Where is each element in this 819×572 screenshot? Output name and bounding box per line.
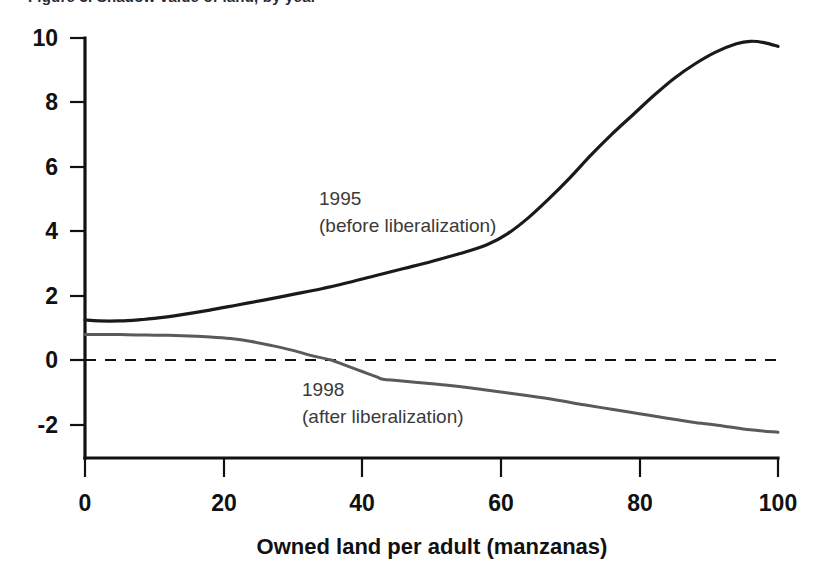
y-tick-label-2: 2 bbox=[45, 283, 58, 309]
y-tick-label-neg2: -2 bbox=[38, 412, 58, 438]
series-line-1995 bbox=[85, 41, 778, 321]
annotation-1995-line2: (before liberalization) bbox=[319, 215, 496, 236]
y-tick-label-0: 0 bbox=[45, 347, 58, 373]
x-tick-label-40: 40 bbox=[349, 490, 375, 516]
y-axis-ticks bbox=[70, 38, 85, 425]
annotation-1998-line2: (after liberalization) bbox=[302, 406, 464, 427]
y-tick-label-6: 6 bbox=[45, 154, 58, 180]
x-tick-label-0: 0 bbox=[79, 490, 92, 516]
x-axis-ticks bbox=[85, 458, 778, 477]
x-tick-label-100: 100 bbox=[759, 490, 797, 516]
y-tick-label-10: 10 bbox=[32, 25, 58, 51]
line-chart-canvas: 10 8 6 4 2 0 -2 0 20 40 60 80 100 bbox=[0, 0, 819, 572]
x-axis-tick-labels: 0 20 40 60 80 100 bbox=[79, 490, 798, 516]
x-tick-label-60: 60 bbox=[488, 490, 514, 516]
x-axis-title: Owned land per adult (manzanas) bbox=[257, 534, 608, 559]
annotation-1995-line1: 1995 bbox=[319, 188, 361, 209]
y-axis-tick-labels: 10 8 6 4 2 0 -2 bbox=[32, 25, 58, 438]
annotation-1995: 1995 (before liberalization) bbox=[319, 188, 496, 236]
x-tick-label-20: 20 bbox=[211, 490, 237, 516]
x-tick-label-80: 80 bbox=[627, 490, 653, 516]
annotation-1998-line1: 1998 bbox=[302, 379, 344, 400]
y-tick-label-4: 4 bbox=[45, 218, 58, 244]
chart-figure: Figure 3. Shadow value of land, by year … bbox=[0, 0, 819, 572]
y-tick-label-8: 8 bbox=[45, 89, 58, 115]
annotation-1998: 1998 (after liberalization) bbox=[302, 379, 464, 427]
